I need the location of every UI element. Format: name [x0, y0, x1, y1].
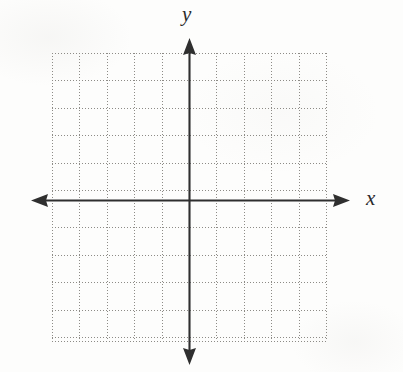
- x-axis-right-arrowhead: [333, 194, 350, 207]
- gridline-vertical-8: [271, 53, 272, 341]
- dotted-grid: [52, 53, 326, 341]
- x-axis-label: x: [366, 188, 375, 209]
- gridline-vertical-0: [52, 53, 53, 341]
- gridline-vertical-10: [326, 53, 327, 341]
- gridline-horizontal-11: [52, 337, 326, 338]
- gridline-horizontal-0: [52, 53, 326, 54]
- gridline-vertical-2: [107, 53, 108, 341]
- gridline-horizontal-6: [52, 200, 326, 201]
- gridline-vertical-6: [216, 53, 217, 341]
- gridline-vertical-5: [189, 53, 190, 341]
- y-axis-label: y: [182, 4, 191, 25]
- gridline-horizontal-9: [52, 282, 326, 283]
- coordinate-plane-figure: y x: [0, 0, 403, 372]
- gridline-vertical-4: [162, 53, 163, 341]
- gridline-vertical-3: [134, 53, 135, 341]
- gridline-horizontal-1: [52, 80, 326, 81]
- gridline-horizontal-4: [52, 163, 326, 164]
- gridline-horizontal-12: [52, 341, 326, 342]
- y-axis-bottom-arrowhead: [183, 348, 196, 365]
- gridline-horizontal-8: [52, 255, 326, 256]
- gridline-horizontal-2: [52, 108, 326, 109]
- gridline-horizontal-5: [52, 190, 326, 191]
- gridline-vertical-7: [244, 53, 245, 341]
- gridline-horizontal-7: [52, 227, 326, 228]
- gridline-horizontal-10: [52, 310, 326, 311]
- gridline-vertical-9: [299, 53, 300, 341]
- gridline-horizontal-3: [52, 135, 326, 136]
- x-axis-left-arrowhead: [31, 194, 48, 207]
- gridline-vertical-1: [79, 53, 80, 341]
